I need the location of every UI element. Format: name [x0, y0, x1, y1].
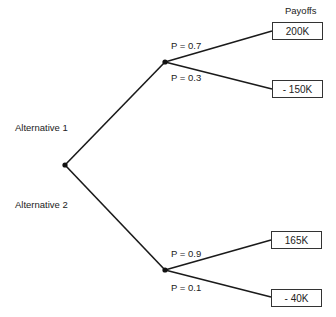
payoff-box-2b: - 40K	[271, 289, 322, 307]
payoff-box-2a: 165K	[271, 231, 322, 249]
payoff-box-1a: 200K	[272, 22, 323, 40]
probability-label-2b: P = 0.1	[171, 282, 201, 293]
payoff-box-1b: - 150K	[272, 80, 323, 98]
alternative-2-label: Alternative 2	[15, 199, 68, 210]
payoffs-header: Payoffs	[285, 5, 317, 16]
probability-label-2a: P = 0.9	[171, 248, 201, 259]
alternative-1-label: Alternative 1	[15, 122, 68, 133]
branch-alternative-1	[65, 62, 165, 165]
decision-node	[62, 162, 67, 167]
chance-node-2	[162, 267, 167, 272]
chance-node-1	[162, 59, 167, 64]
decision-tree-lines	[0, 0, 336, 317]
probability-label-1b: P = 0.3	[171, 72, 201, 83]
probability-label-1a: P = 0.7	[171, 40, 201, 51]
branch-alternative-2	[65, 165, 165, 270]
